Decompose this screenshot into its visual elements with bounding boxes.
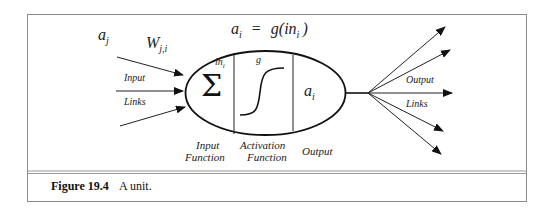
net-input-sub: i — [223, 62, 225, 70]
figure-number: Figure 19.4 — [51, 179, 109, 194]
weight-label: Wj,i — [146, 34, 167, 54]
formula-lhs: a — [231, 20, 239, 37]
input-links-label-line2: Links — [124, 96, 146, 107]
activation-g-label: g — [256, 54, 261, 65]
sigmoid-curve-icon — [240, 68, 284, 115]
formula-equals: = — [252, 20, 261, 37]
output-section-label: Output — [302, 145, 333, 157]
input-arrow-bottom — [120, 107, 185, 126]
output-links-label-line1: Output — [406, 74, 434, 85]
activation-formula: ai = g(ini) — [231, 20, 308, 40]
output-arrow-5 — [368, 93, 441, 154]
input-links-label-line1: Input — [124, 72, 145, 83]
output-arrow-2 — [368, 50, 450, 93]
weight-base: W — [146, 34, 159, 51]
net-input-base: in — [215, 56, 223, 67]
output-value-base: a — [304, 82, 312, 99]
input-function-label-line1: Input — [196, 139, 219, 151]
input-activation-base: a — [98, 26, 106, 43]
formula-rhs-func: g(in — [271, 20, 297, 37]
output-value-sub: i — [312, 91, 315, 102]
activation-function-label-line2: Function — [247, 151, 287, 163]
figure-caption: A unit. — [119, 179, 152, 194]
input-activation-sub: j — [106, 35, 109, 46]
formula-rhs-close: ) — [302, 20, 307, 37]
output-links-label-line2: Links — [406, 98, 428, 109]
formula-lhs-sub: i — [239, 29, 242, 40]
summation-icon: Σ — [201, 68, 222, 103]
input-activation-label: aj — [98, 26, 109, 46]
figure-panel: ai = g(ini) aj Wj,i Input Links ini Σ g … — [0, 0, 553, 212]
input-function-label-line2: Function — [185, 151, 225, 163]
weight-sub: j,i — [159, 43, 167, 54]
output-value-label: ai — [304, 82, 315, 102]
activation-function-label-line1: Activation — [240, 139, 285, 151]
formula-rhs-sub: i — [297, 29, 300, 40]
